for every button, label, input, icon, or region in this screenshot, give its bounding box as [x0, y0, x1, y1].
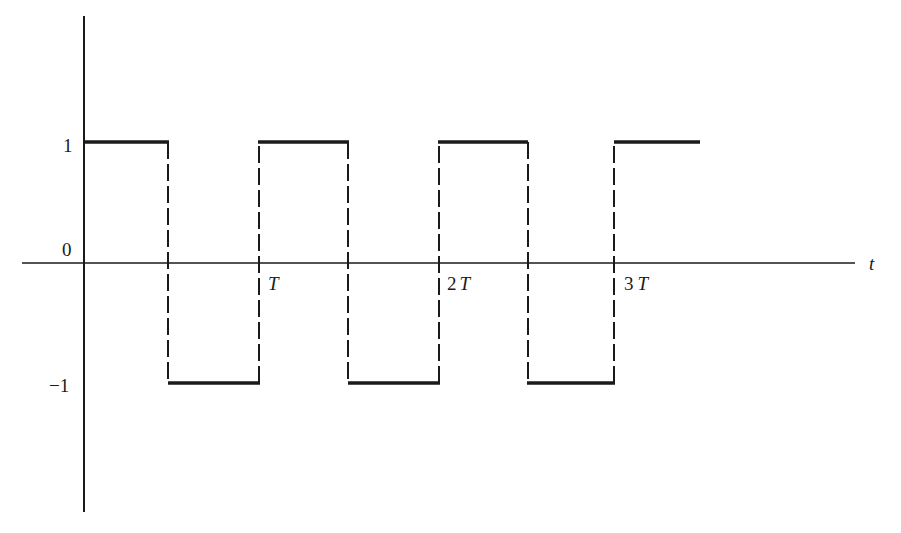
x-tick-label-T: T	[268, 273, 280, 294]
x-tick-label-2T: 2T	[447, 273, 472, 294]
x-axis-label-t: t	[869, 253, 875, 274]
x-tick-2T-variable: T	[460, 273, 472, 294]
square-wave-chart: 1 0 −1 T 2T 3T t	[0, 0, 901, 533]
y-tick-label-0: 0	[62, 239, 72, 260]
x-tick-3T-variable: T	[638, 273, 650, 294]
x-tick-label-3T: 3T	[624, 273, 650, 294]
y-tick-label-1: 1	[63, 135, 73, 156]
x-tick-2T-number: 2	[447, 273, 457, 294]
y-tick-label-minus-1: −1	[49, 375, 69, 396]
x-tick-3T-number: 3	[624, 273, 634, 294]
